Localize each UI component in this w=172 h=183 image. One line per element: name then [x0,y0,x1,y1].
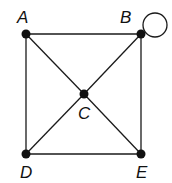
self-loop-b [143,13,167,37]
edge-b-c [84,34,141,94]
vertex-label-d: D [20,163,32,182]
vertex-label-b: B [120,8,131,27]
vertex-label-a: A [16,8,28,27]
edge-c-e [84,94,141,154]
vertex-b [137,30,146,39]
vertex-c [80,90,89,99]
graph-diagram: ABCDE [0,0,172,183]
edge-a-c [26,34,84,94]
edge-c-d [26,94,84,154]
graph-svg: ABCDE [0,0,172,183]
vertex-a [22,30,31,39]
loops-layer [143,13,167,37]
vertex-d [22,150,31,159]
vertex-label-e: E [136,163,148,182]
vertex-e [137,150,146,159]
vertex-label-c: C [78,104,91,123]
